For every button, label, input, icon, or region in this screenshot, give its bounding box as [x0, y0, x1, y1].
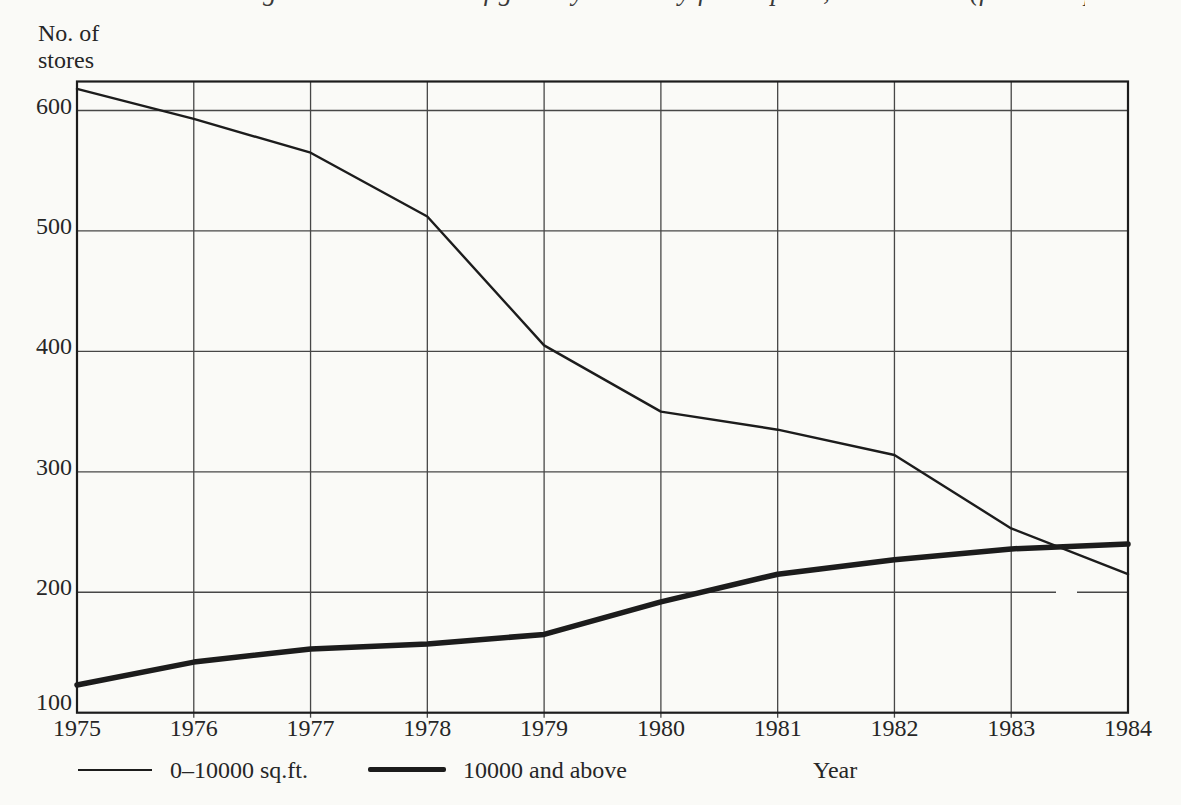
- scan-artifact-grid-gap: [1056, 590, 1077, 594]
- series-line-small-stores: [77, 89, 1128, 574]
- series-line-large-stores: [77, 544, 1128, 685]
- line-chart-canvas: [0, 0, 1181, 805]
- scanned-book-page: Changes in the number of grocery stores …: [0, 0, 1181, 805]
